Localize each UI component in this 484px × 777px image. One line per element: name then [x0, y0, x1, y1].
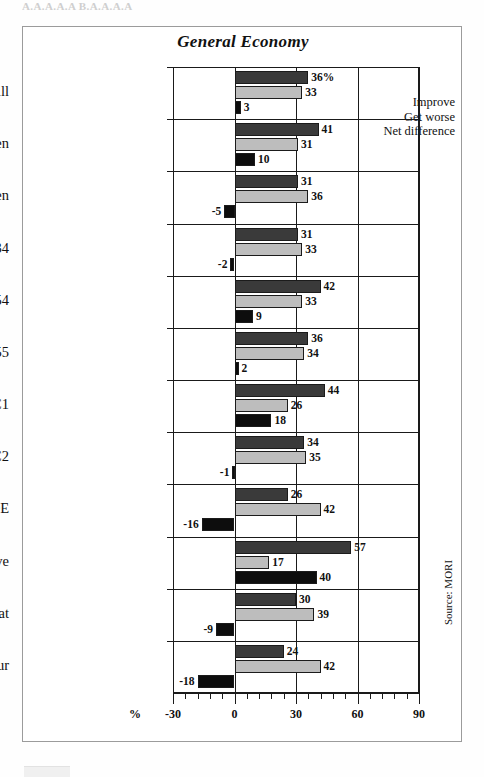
bar-value-label: 34 — [307, 347, 319, 360]
bar-value-label: 31 — [301, 175, 313, 188]
axis-tick-y — [167, 119, 173, 120]
source-note: Source: MORI — [442, 515, 454, 625]
bar-get-worse — [235, 399, 288, 412]
axis-tick-minor — [370, 693, 371, 699]
bar-get-worse — [235, 86, 303, 99]
bar-get-worse — [235, 503, 321, 516]
row-separator — [173, 328, 419, 329]
row-separator — [173, 224, 419, 225]
bar-value-label: 24 — [287, 645, 299, 658]
gridline-x-90 — [419, 67, 420, 693]
axis-tick-label-x: 60 — [338, 707, 378, 722]
chart-title: General Economy — [23, 32, 463, 52]
axis-tick-label-x: 0 — [215, 707, 255, 722]
axis-tick-minor — [271, 693, 272, 699]
axis-tick-major — [358, 693, 359, 704]
scan-artifact-top-text: A.A.A.A.A B.A.A.A.A — [22, 0, 222, 14]
axis-tick-major — [235, 693, 236, 704]
bar-value-label: 10 — [258, 153, 270, 166]
bar-value-label: 18 — [274, 414, 286, 427]
category-label: DE — [0, 501, 9, 516]
axis-tick-y — [167, 537, 173, 538]
bar-improve — [235, 645, 284, 658]
axis-tick-y — [167, 432, 173, 433]
bar-value-label: 35 — [309, 451, 321, 464]
category-label: Women — [0, 188, 9, 203]
bar-net-difference — [235, 153, 256, 166]
bar-get-worse — [235, 608, 315, 621]
bar-value-label: 33 — [305, 243, 317, 256]
bar-get-worse — [235, 138, 299, 151]
axis-tick-major — [296, 693, 297, 704]
bar-get-worse — [235, 451, 307, 464]
axis-tick-y — [167, 484, 173, 485]
row-separator — [173, 589, 419, 590]
axis-tick-minor — [394, 693, 395, 699]
bar-improve — [235, 541, 352, 554]
bar-net-difference — [230, 258, 234, 271]
bar-net-difference — [235, 101, 241, 114]
axis-tick-minor — [382, 693, 383, 699]
category-label: 35-54 — [0, 293, 9, 308]
bar-value-label: 42 — [324, 660, 336, 673]
bar-get-worse — [235, 660, 321, 673]
bar-improve — [235, 175, 299, 188]
axis-tick-label-x: -30 — [153, 707, 193, 722]
axis-tick-minor — [407, 693, 408, 699]
row-separator — [173, 537, 419, 538]
bar-improve — [235, 123, 319, 136]
row-separator — [173, 119, 419, 120]
axis-tick-minor — [345, 693, 346, 699]
axis-tick-minor — [333, 693, 334, 699]
row-separator — [173, 432, 419, 433]
category-label: Over 55 — [0, 345, 9, 360]
bar-net-difference — [224, 205, 234, 218]
bar-value-label: 33 — [305, 295, 317, 308]
axis-tick-minor — [284, 693, 285, 699]
axis-tick-major — [173, 693, 174, 704]
bar-value-label: 26 — [291, 399, 303, 412]
bar-get-worse — [235, 347, 305, 360]
row-separator — [173, 484, 419, 485]
axis-tick-y — [167, 276, 173, 277]
scan-artifact-bottom-swatch — [24, 766, 70, 777]
bar-value-label: 41 — [322, 123, 334, 136]
bar-improve — [235, 593, 297, 606]
category-label: Liberal Democrat — [0, 606, 9, 621]
axis-tick-y — [167, 380, 173, 381]
bar-net-difference — [235, 414, 272, 427]
bar-value-label: 57 — [354, 541, 366, 554]
bar-improve — [235, 332, 309, 345]
bar-value-label: -5 — [198, 205, 221, 218]
bar-net-difference — [232, 466, 235, 479]
axis-tick-y — [167, 67, 173, 68]
bar-net-difference — [235, 571, 317, 584]
bar-value-label: -16 — [176, 518, 199, 531]
bar-improve — [235, 280, 321, 293]
axis-tick-y — [167, 224, 173, 225]
bar-get-worse — [235, 190, 309, 203]
bar-improve — [235, 71, 309, 84]
bar-value-label: 3 — [244, 101, 250, 114]
bar-net-difference — [216, 623, 234, 636]
axis-tick-y — [167, 171, 173, 172]
bar-value-label: 30 — [299, 593, 311, 606]
bar-get-worse — [235, 556, 270, 569]
bar-value-label: 31 — [301, 228, 313, 241]
category-label: C2 — [0, 449, 9, 464]
bar-value-label: 42 — [324, 280, 336, 293]
bar-get-worse — [235, 295, 303, 308]
axis-percent-symbol: % — [129, 707, 141, 722]
category-label: Labour — [0, 658, 9, 673]
axis-tick-y — [167, 641, 173, 642]
axis-tick-y — [167, 589, 173, 590]
category-label: ABC1 — [0, 397, 9, 412]
bar-value-label: 34 — [307, 436, 319, 449]
axis-tick-major — [419, 693, 420, 704]
row-separator — [173, 276, 419, 277]
bar-value-label: 31 — [301, 138, 313, 151]
bar-value-label: 2 — [242, 362, 248, 375]
bar-value-label: -9 — [190, 623, 213, 636]
bar-value-label: -1 — [206, 466, 229, 479]
bar-value-label: 39 — [317, 608, 329, 621]
